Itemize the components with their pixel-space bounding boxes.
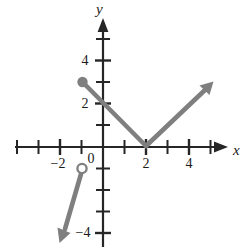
segment-upper-left-branch [83,83,146,147]
graph-figure: x y 0 −2 2 4 4 2 −4 [0,0,250,247]
coordinate-plane-svg [0,0,250,247]
x-axis-arrowhead [214,142,228,153]
y-tick-label-2: 2 [78,97,92,111]
segment-upper-right-ray [146,90,205,146]
x-tick-label-2: 2 [139,157,153,171]
y-tick-label-minus4: −4 [70,226,96,240]
y-axis-label: y [96,2,103,17]
closed-point-marker [77,77,87,87]
axes-group [15,18,228,247]
y-axis-arrowhead [98,18,109,32]
segment-lower-left-ray [65,174,81,229]
x-tick-label-4: 4 [182,157,196,171]
y-tick-label-4: 4 [78,54,92,68]
x-tick-label-minus2: −2 [45,157,71,171]
x-axis-label: x [233,143,240,158]
origin-label: 0 [84,152,98,166]
